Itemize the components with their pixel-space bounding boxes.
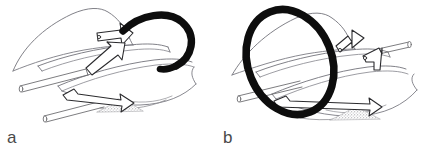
panel-a-catheter-rod-lower bbox=[43, 101, 104, 122]
panel-label-b: b bbox=[223, 129, 232, 146]
panel-a-illustration bbox=[13, 8, 196, 122]
panel-a-black-tube-hook bbox=[123, 15, 191, 69]
panel-b-illustration bbox=[231, 0, 417, 128]
figure-container: a b bbox=[0, 0, 429, 155]
panel-b-catheter-rod-right bbox=[378, 42, 411, 55]
panel-label-a: a bbox=[7, 129, 16, 146]
panel-a-catheter-rod-upper bbox=[19, 69, 88, 92]
figure-illustration bbox=[0, 0, 429, 155]
panel-a-leaflet-upper bbox=[13, 8, 133, 71]
